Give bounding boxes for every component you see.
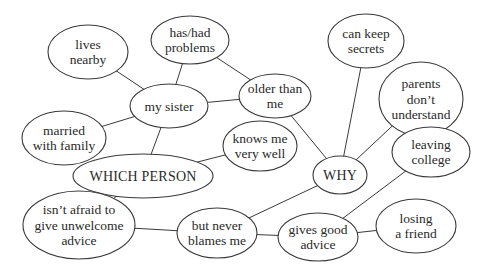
node-label: parents (402, 76, 441, 91)
node-has-had-problems: has/hadproblems (151, 16, 229, 64)
node-label: blames me (188, 233, 246, 248)
node-can-keep-secrets: can keepsecrets (328, 14, 404, 68)
node-label: me (267, 96, 284, 111)
node-label: married (43, 123, 85, 138)
node-label: college (412, 152, 451, 167)
node-layer: WHICH PERSONWHYmy sisterlivesnearbyhas/h… (22, 14, 470, 261)
node-label: problems (165, 40, 215, 55)
node-isnt-afraid: isn’t afraid togive unwelcomeadvice (23, 191, 135, 259)
node-label: with family (33, 138, 96, 153)
node-which-person: WHICH PERSON (73, 154, 213, 198)
node-label: has/had (169, 25, 210, 40)
node-label: knows me (232, 131, 287, 146)
node-knows-me-very-well: knows mevery well (223, 121, 297, 171)
node-but-never-blames-me: but neverblames me (177, 208, 257, 258)
node-married-with-family: marriedwith family (22, 111, 106, 165)
node-gives-good-advice: gives goodadvice (278, 213, 358, 261)
node-lives-nearby: livesnearby (48, 25, 128, 79)
node-leaving-college: leavingcollege (392, 127, 470, 177)
node-label: understand (391, 107, 450, 122)
node-label: losing (399, 211, 432, 226)
node-label: advice (61, 233, 96, 248)
node-label: give unwelcome (35, 218, 124, 233)
node-label: but never (192, 218, 243, 233)
node-label: don’t (407, 92, 436, 107)
node-label: secrets (348, 41, 385, 56)
node-label: leaving (411, 137, 451, 152)
node-label: older than (248, 81, 303, 96)
node-label: nearby (70, 52, 107, 67)
node-losing-a-friend: losinga friend (376, 199, 456, 253)
node-label: isn’t afraid to (43, 202, 116, 217)
node-label: gives good (289, 222, 348, 237)
node-label: my sister (144, 99, 194, 114)
node-label: can keep (342, 26, 390, 41)
node-older-than-me: older thanme (239, 74, 311, 118)
node-label: very well (235, 146, 286, 161)
node-label: a friend (395, 226, 437, 241)
node-parents-dont-understand: parentsdon’tunderstand (379, 62, 463, 136)
node-label: WHICH PERSON (89, 169, 196, 184)
mind-map-diagram: WHICH PERSONWHYmy sisterlivesnearbyhas/h… (0, 0, 491, 278)
node-label: WHY (323, 168, 357, 183)
node-my-sister: my sister (130, 84, 208, 128)
node-label: lives (75, 37, 101, 52)
node-label: advice (300, 237, 335, 252)
node-why: WHY (313, 156, 367, 194)
